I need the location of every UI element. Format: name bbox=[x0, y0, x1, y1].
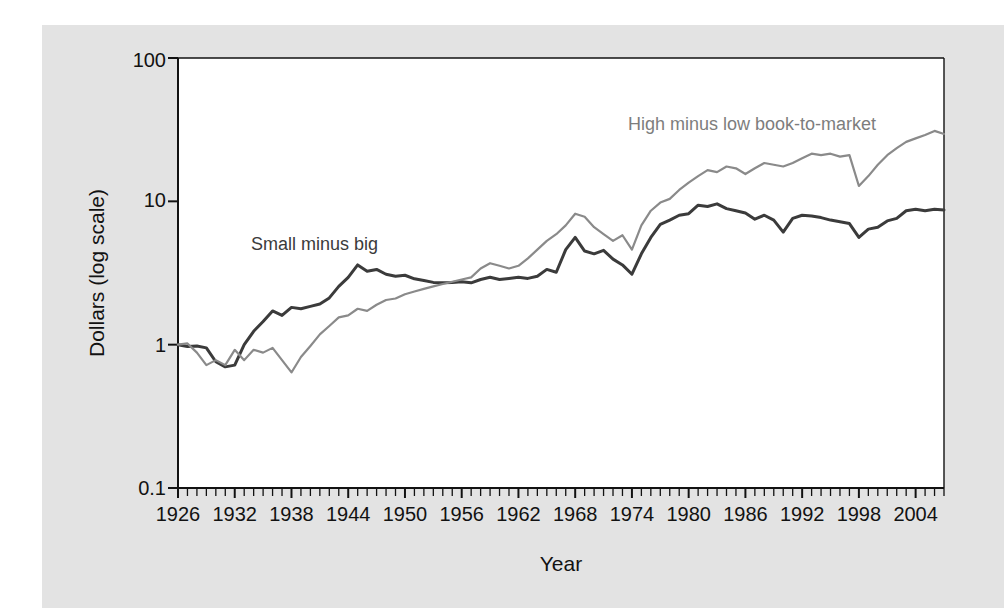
x-tick-label-2004: 2004 bbox=[893, 503, 938, 525]
figure-container: 100 10 1 0.1 192619321938194419501956196… bbox=[0, 0, 1004, 608]
y-tick-label-1: 1 bbox=[155, 334, 166, 356]
x-axis-ticks bbox=[178, 488, 944, 498]
x-tick-label-1992: 1992 bbox=[780, 503, 825, 525]
y-tick-label-0.1: 0.1 bbox=[138, 477, 166, 499]
x-tick-label-1980: 1980 bbox=[666, 503, 711, 525]
series-label-small-minus-big: Small minus big bbox=[251, 234, 378, 254]
x-tick-label-1944: 1944 bbox=[326, 503, 371, 525]
x-tick-label-1962: 1962 bbox=[496, 503, 541, 525]
x-tick-label-1986: 1986 bbox=[723, 503, 768, 525]
x-tick-label-1998: 1998 bbox=[837, 503, 882, 525]
x-tick-label-1968: 1968 bbox=[553, 503, 598, 525]
x-axis-title: Year bbox=[540, 552, 582, 575]
x-tick-label-1974: 1974 bbox=[610, 503, 655, 525]
x-tick-label-1950: 1950 bbox=[383, 503, 428, 525]
y-tick-label-10: 10 bbox=[144, 189, 166, 211]
x-tick-label-1932: 1932 bbox=[212, 503, 257, 525]
x-tick-label-1938: 1938 bbox=[269, 503, 314, 525]
y-tick-label-100: 100 bbox=[133, 49, 166, 71]
y-axis-ticks bbox=[168, 58, 178, 488]
x-axis-tick-labels: 1926193219381944195019561962196819741980… bbox=[156, 503, 938, 525]
x-tick-label-1926: 1926 bbox=[156, 503, 201, 525]
y-axis-tick-labels: 100 10 1 0.1 bbox=[133, 49, 166, 499]
chart-svg: 100 10 1 0.1 192619321938194419501956196… bbox=[0, 0, 1004, 608]
y-axis-title: Dollars (log scale) bbox=[85, 189, 108, 357]
series-label-high-minus-low: High minus low book-to-market bbox=[628, 114, 876, 134]
x-tick-label-1956: 1956 bbox=[439, 503, 484, 525]
